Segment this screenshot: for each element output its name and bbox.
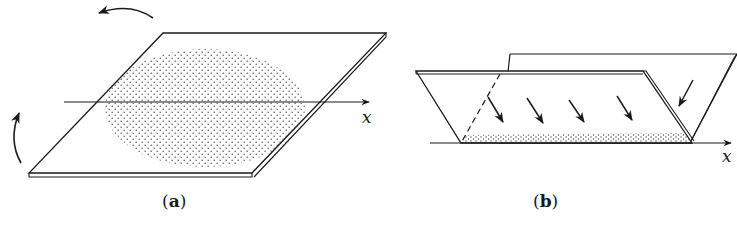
panel-a: x (a) — [14, 9, 386, 211]
arrow-down-left-icon — [679, 80, 693, 106]
front-plate-b — [416, 71, 692, 143]
dotted-region-a — [105, 49, 305, 167]
panel-b: x (b) — [416, 54, 737, 211]
panel-label-b: (b) — [533, 191, 558, 211]
x-axis-label-a: x — [362, 107, 372, 127]
rotation-arrow-left-icon — [14, 113, 21, 163]
rotation-arrow-top-icon — [99, 9, 153, 18]
x-axis-label-b: x — [722, 146, 732, 166]
figure-canvas: x (a) x (b) — [0, 0, 737, 232]
panel-label-a: (a) — [162, 191, 186, 211]
